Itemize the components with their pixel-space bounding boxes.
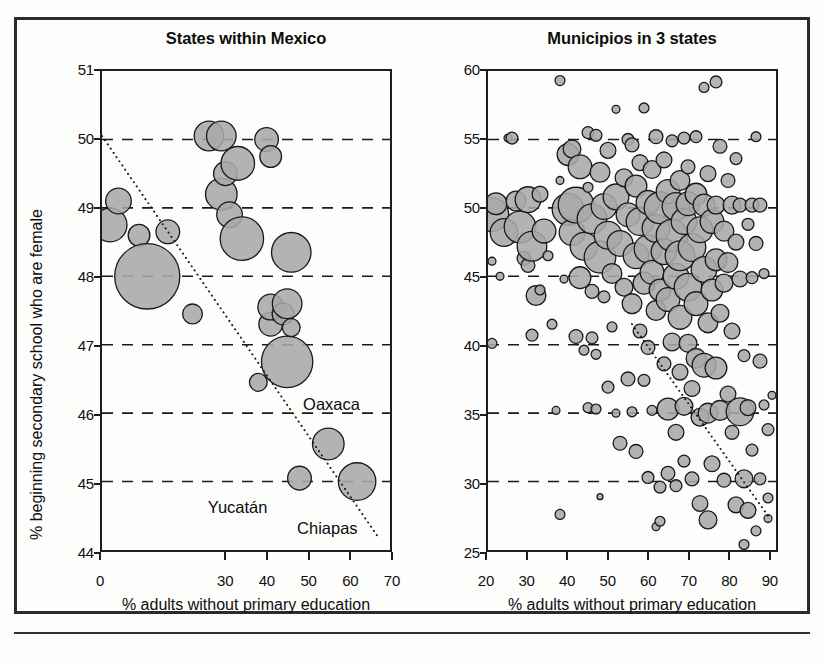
data-bubble bbox=[633, 324, 647, 338]
data-bubble bbox=[749, 236, 763, 250]
data-bubble bbox=[663, 333, 681, 351]
x-tick-mark bbox=[728, 552, 730, 560]
x-tick-label: 50 bbox=[600, 572, 616, 589]
data-bubble bbox=[555, 509, 565, 519]
x-tick-mark bbox=[526, 552, 528, 560]
data-bubble bbox=[654, 481, 666, 493]
data-bubble bbox=[678, 132, 690, 144]
data-bubble bbox=[751, 132, 761, 142]
data-bubble bbox=[583, 182, 593, 192]
data-bubble bbox=[629, 445, 643, 459]
plot-area-left bbox=[100, 69, 392, 552]
panel-title-left: States within Mexico bbox=[100, 29, 392, 48]
y-tick-mark bbox=[480, 69, 487, 71]
data-bubble bbox=[713, 139, 727, 153]
x-tick-label: 80 bbox=[721, 572, 737, 589]
y-tick-label: 45 bbox=[78, 475, 94, 492]
x-axis-title-left: % adults without primary education bbox=[80, 596, 412, 614]
data-bubble bbox=[739, 540, 749, 550]
point-annotation: Chiapas bbox=[297, 518, 358, 537]
data-bubble bbox=[569, 330, 583, 344]
x-axis-title-right: % adults without primary education bbox=[466, 596, 798, 614]
data-bubble bbox=[672, 364, 688, 380]
data-bubble bbox=[272, 233, 311, 273]
point-annotation: Yucatán bbox=[208, 498, 268, 517]
data-bubble bbox=[649, 130, 663, 144]
data-bubble bbox=[724, 323, 740, 339]
data-bubble bbox=[598, 291, 610, 303]
x-tick-mark bbox=[391, 552, 393, 560]
x-tick-mark bbox=[566, 552, 568, 560]
y-tick-mark bbox=[94, 414, 101, 416]
data-bubble bbox=[591, 404, 601, 414]
data-bubble bbox=[704, 456, 720, 472]
data-bubble bbox=[707, 196, 725, 214]
data-bubble bbox=[638, 374, 650, 386]
data-bubble bbox=[313, 428, 345, 460]
data-bubble bbox=[612, 409, 620, 417]
data-bubble bbox=[718, 253, 738, 273]
data-bubble bbox=[690, 131, 702, 143]
data-bubble bbox=[763, 493, 773, 503]
data-bubble bbox=[641, 341, 655, 355]
x-tick-mark bbox=[349, 552, 351, 560]
y-tick-mark bbox=[94, 276, 101, 278]
data-bubble bbox=[220, 217, 263, 261]
data-bubble bbox=[759, 269, 769, 279]
y-tick-label: 45 bbox=[464, 268, 480, 285]
data-bubble bbox=[753, 354, 767, 368]
data-bubble bbox=[272, 289, 302, 319]
y-tick-label: 49 bbox=[78, 199, 94, 216]
data-bubble bbox=[221, 147, 255, 181]
x-tick-label: 30 bbox=[217, 572, 233, 589]
data-bubble bbox=[746, 444, 758, 456]
data-bubble bbox=[759, 400, 769, 410]
data-bubble bbox=[547, 319, 557, 329]
data-bubble bbox=[670, 480, 682, 492]
y-tick-mark bbox=[94, 345, 101, 347]
data-bubble bbox=[600, 142, 616, 158]
x-tick-mark bbox=[485, 552, 487, 560]
data-bubble bbox=[705, 357, 727, 379]
y-tick-mark bbox=[94, 138, 101, 140]
data-bubble bbox=[568, 155, 592, 179]
y-tick-mark bbox=[480, 345, 487, 347]
data-bubble bbox=[532, 219, 556, 243]
data-bubble bbox=[681, 160, 695, 174]
x-tick-label: 70 bbox=[384, 572, 400, 589]
data-bubble bbox=[721, 174, 735, 188]
y-tick-label: 51 bbox=[78, 61, 94, 78]
data-bubble bbox=[506, 132, 518, 144]
x-tick-label: 40 bbox=[259, 572, 275, 589]
data-bubble bbox=[711, 304, 729, 322]
data-bubble bbox=[106, 188, 132, 214]
x-tick-label: 0 bbox=[96, 572, 104, 589]
data-bubble bbox=[642, 472, 654, 484]
data-bubble bbox=[590, 129, 602, 141]
data-bubble bbox=[768, 391, 776, 399]
y-axis-title-left: % beginning secondary school who are fem… bbox=[28, 209, 46, 540]
data-bubble bbox=[732, 271, 748, 287]
data-bubble bbox=[612, 105, 620, 113]
data-bubble bbox=[735, 470, 753, 488]
x-tick-mark bbox=[308, 552, 310, 560]
data-bubble bbox=[710, 76, 722, 88]
x-tick-label: 90 bbox=[762, 572, 778, 589]
data-bubble bbox=[753, 198, 767, 212]
x-axis-ticks-left: 03040506070 bbox=[100, 560, 392, 582]
data-bubble bbox=[338, 463, 375, 501]
y-tick-label: 60 bbox=[464, 61, 480, 78]
data-bubble bbox=[666, 135, 678, 147]
y-tick-label: 50 bbox=[464, 199, 480, 216]
y-tick-label: 48 bbox=[78, 268, 94, 285]
data-bubble bbox=[532, 186, 548, 202]
scatter-canvas-right bbox=[488, 71, 776, 550]
data-bubble bbox=[742, 218, 754, 230]
data-bubble bbox=[555, 76, 565, 86]
data-bubble bbox=[602, 381, 614, 393]
data-bubble bbox=[543, 251, 553, 261]
page-bottom-rule bbox=[14, 632, 810, 634]
x-tick-mark bbox=[224, 552, 226, 560]
data-bubble bbox=[678, 455, 690, 467]
data-bubble bbox=[738, 350, 750, 362]
